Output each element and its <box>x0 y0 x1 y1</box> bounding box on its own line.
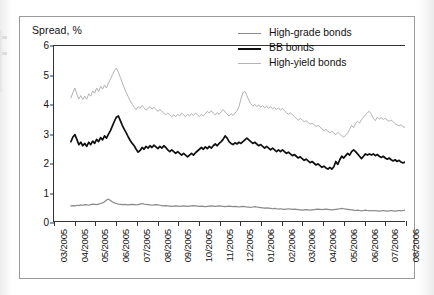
x-axis-tick-mark <box>323 221 324 226</box>
legend-label: High-yield bonds <box>269 58 346 68</box>
margin-artifact <box>0 30 2 92</box>
chart-legend: High-grade bondsBB bondsHigh-yield bonds <box>238 26 352 71</box>
y-axis-tick-label: 3 <box>43 130 49 140</box>
y-axis-title: Spread, % <box>32 24 82 36</box>
legend-item-2: BB bonds <box>238 41 352 56</box>
x-axis-tick-label: 06/2005 <box>120 229 131 262</box>
x-axis-tick-label: 05/2005 <box>99 229 110 262</box>
y-axis-tick-mark <box>50 134 54 135</box>
x-axis-tick-mark <box>75 221 76 226</box>
x-axis-tick-mark <box>199 221 200 226</box>
margin-artifact <box>2 36 7 39</box>
y-axis-tick-label: 6 <box>43 41 49 51</box>
x-axis-tick-label: 07/2005 <box>141 229 152 262</box>
x-axis-tick-mark <box>95 221 96 226</box>
figure-page: Spread, % 012345603/200504/200505/200506… <box>0 0 434 295</box>
series-canvas <box>54 46 405 221</box>
x-axis-tick-label: 12/2005 <box>244 229 255 262</box>
series-line-high-grade-bonds <box>71 199 405 211</box>
x-axis-tick-label: 08/2005 <box>162 229 173 262</box>
y-axis-tick-label: 5 <box>43 71 49 81</box>
legend-swatch-icon <box>238 33 261 34</box>
x-axis-tick-label: 11/2005 <box>224 229 235 262</box>
y-axis-tick-mark <box>50 105 54 106</box>
x-axis-tick-label: 10/2005 <box>203 229 214 262</box>
y-axis-tick-mark <box>50 164 54 165</box>
y-axis-tick-mark <box>50 46 54 47</box>
x-axis-tick-label: 04/2005 <box>79 229 90 262</box>
x-axis-tick-mark <box>282 221 283 226</box>
legend-item-3: High-yield bonds <box>238 56 352 71</box>
x-axis-tick-mark <box>158 221 159 226</box>
legend-item-1: High-grade bonds <box>238 26 352 41</box>
x-axis-tick-label: 09/2005 <box>182 229 193 262</box>
x-axis-tick-mark <box>261 221 262 226</box>
x-axis-tick-mark <box>116 221 117 226</box>
y-axis-tick-label: 4 <box>43 100 49 110</box>
y-axis-tick-label: 0 <box>43 218 49 228</box>
x-axis-tick-mark <box>344 221 345 226</box>
y-axis-tick-mark <box>50 193 54 194</box>
x-axis-tick-mark <box>137 221 138 226</box>
x-axis-tick-mark <box>240 221 241 226</box>
y-axis-tick-label: 2 <box>43 159 49 169</box>
x-axis-tick-mark <box>178 221 179 226</box>
x-axis-tick-label: 08/2006 <box>410 229 421 262</box>
legend-swatch-icon <box>238 48 261 50</box>
x-axis-tick-label: 03/2005 <box>58 229 69 262</box>
legend-label: High-grade bonds <box>269 28 352 38</box>
x-axis-tick-label: 04/2006 <box>327 229 338 262</box>
x-axis-tick-mark <box>406 221 407 226</box>
margin-artifact <box>2 52 7 55</box>
legend-swatch-icon <box>238 63 261 64</box>
chart-figure: Spread, % 012345603/200504/200505/200506… <box>19 16 415 279</box>
x-axis-tick-label: 02/2006 <box>286 229 297 262</box>
y-axis-tick-label: 1 <box>43 189 49 199</box>
x-axis-tick-mark <box>302 221 303 226</box>
legend-label: BB bonds <box>269 43 314 53</box>
x-axis-tick-mark <box>385 221 386 226</box>
x-axis-tick-mark <box>365 221 366 226</box>
y-axis-tick-mark <box>50 75 54 76</box>
plot-area: 012345603/200504/200505/200506/200507/20… <box>53 45 405 222</box>
x-axis-tick-label: 01/2006 <box>265 229 276 262</box>
x-axis-tick-label: 03/2006 <box>306 229 317 262</box>
x-axis-tick-mark <box>220 221 221 226</box>
x-axis-tick-label: 05/2006 <box>348 229 359 262</box>
x-axis-tick-mark <box>54 221 55 226</box>
x-axis-tick-label: 07/2006 <box>389 229 400 262</box>
x-axis-tick-label: 06/2006 <box>369 229 380 262</box>
series-line-high-yield-bonds <box>71 68 405 137</box>
